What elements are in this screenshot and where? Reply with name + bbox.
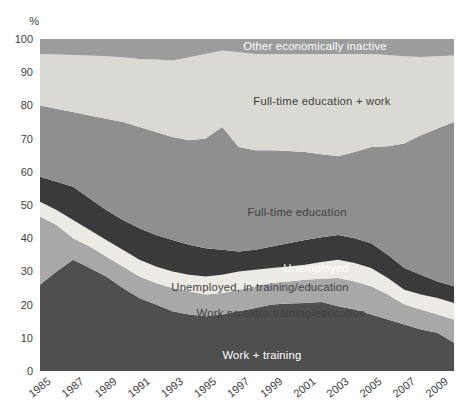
x-axis-tick-labels: 1985198719891991199319951997199920012003… xyxy=(26,375,450,400)
y-tick-label-0: 0 xyxy=(27,365,33,377)
series-label-ft-education: Full-time education xyxy=(247,206,346,218)
x-tick-label-2001: 2001 xyxy=(291,375,318,400)
chart-canvas: % 1009080706050403020100 198519871989199… xyxy=(0,0,468,410)
y-tick-label-60: 60 xyxy=(21,166,33,178)
stacked-area-chart-figure: % 1009080706050403020100 198519871989199… xyxy=(0,0,468,410)
y-axis-unit-label: % xyxy=(29,15,39,27)
x-tick-label-1987: 1987 xyxy=(59,375,86,400)
y-tick-label-100: 100 xyxy=(15,33,33,45)
x-tick-label-1995: 1995 xyxy=(192,375,219,400)
y-tick-label-80: 80 xyxy=(21,99,33,111)
y-tick-label-30: 30 xyxy=(21,265,33,277)
x-tick-label-1989: 1989 xyxy=(92,375,119,400)
x-tick-label-1985: 1985 xyxy=(26,375,53,400)
area-layers xyxy=(40,39,454,371)
y-axis-tick-labels: 1009080706050403020100 xyxy=(15,33,33,377)
x-tick-label-1999: 1999 xyxy=(258,375,285,400)
series-label-unemployed: Unemployed xyxy=(283,262,348,274)
x-tick-label-1997: 1997 xyxy=(225,375,252,400)
x-tick-label-1991: 1991 xyxy=(125,375,152,400)
y-tick-label-40: 40 xyxy=(21,232,33,244)
series-label-work-no-extra: Work no extra training/education xyxy=(197,307,366,319)
x-tick-label-2009: 2009 xyxy=(423,375,450,400)
y-tick-label-10: 10 xyxy=(21,332,33,344)
series-label-other-inactive: Other economically inactive xyxy=(243,40,387,52)
series-label-work-training: Work + training xyxy=(222,349,301,361)
x-tick-label-2007: 2007 xyxy=(390,375,417,400)
y-tick-label-50: 50 xyxy=(21,199,33,211)
x-tick-label-2005: 2005 xyxy=(357,375,384,400)
series-label-unemployed-training: Unemployed, in training/education xyxy=(171,281,348,293)
x-tick-label-1993: 1993 xyxy=(159,375,186,400)
y-tick-label-20: 20 xyxy=(21,299,33,311)
y-tick-label-90: 90 xyxy=(21,66,33,78)
y-tick-label-70: 70 xyxy=(21,133,33,145)
x-tick-label-2003: 2003 xyxy=(324,375,351,400)
series-label-ft-education-work: Full-time education + work xyxy=(253,95,391,107)
